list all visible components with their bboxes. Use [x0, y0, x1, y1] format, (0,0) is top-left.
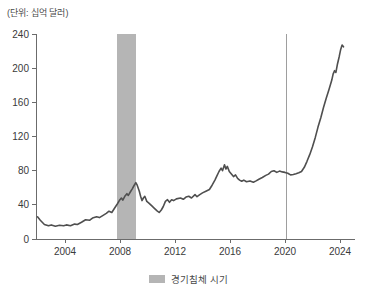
y-tick-label: 200	[12, 63, 29, 74]
x-tick-label: 2020	[274, 246, 297, 257]
x-tick-label: 2008	[109, 246, 132, 257]
y-tick-label: 80	[18, 165, 30, 176]
chart-plot-area: 0408012016020024020042008201220162020202…	[0, 0, 367, 268]
y-tick-label: 40	[18, 199, 30, 210]
x-tick-label: 2024	[329, 246, 352, 257]
recession-band	[117, 34, 136, 239]
x-tick-label: 2012	[164, 246, 187, 257]
x-tick-label: 2004	[54, 246, 77, 257]
recession-band-swatch	[149, 275, 165, 283]
y-tick-label: 120	[12, 131, 29, 142]
x-tick-label: 2016	[219, 246, 242, 257]
y-tick-label: 160	[12, 97, 29, 108]
unit-label: (단위: 십억 달러)	[7, 6, 69, 19]
data-line	[38, 45, 344, 226]
y-tick-label: 240	[12, 29, 29, 40]
recession-line-chart: 0408012016020024020042008201220162020202…	[0, 0, 367, 296]
y-tick-label: 0	[23, 234, 29, 245]
legend: 경기침체 시기	[0, 272, 367, 286]
legend-label: 경기침체 시기	[171, 272, 228, 286]
